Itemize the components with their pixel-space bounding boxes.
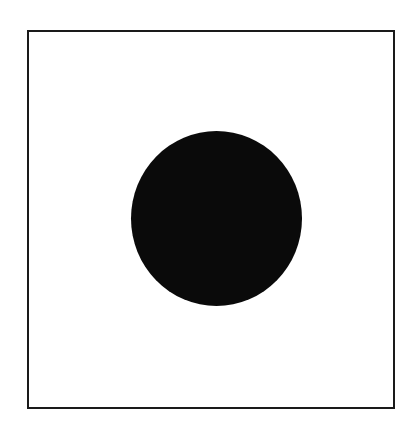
black-circle xyxy=(131,131,302,306)
